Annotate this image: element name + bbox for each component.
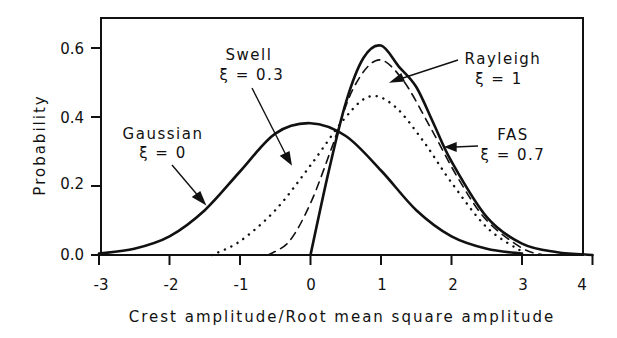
x-tick-label: 3 [518, 276, 528, 294]
arrow-icon [172, 165, 200, 198]
x-axis-ticks [99, 255, 593, 265]
x-tick-label: -3 [94, 276, 109, 294]
arrow-icon [252, 88, 286, 155]
annotation-rayleigh-name: Rayleigh [465, 50, 542, 68]
annotation-gaussian: Gaussian ξ = 0 [123, 125, 204, 162]
annotation-rayleigh-xi: ξ = 1 [475, 70, 523, 88]
x-tick-label: 0 [306, 276, 316, 294]
annotation-swell-xi: ξ = 0.3 [220, 66, 285, 84]
annotation-swell-name: Swell [226, 46, 273, 64]
annotation-fas-name: FAS [497, 126, 529, 144]
y-axis-ticks [91, 48, 101, 255]
y-tick-label: 0.6 [60, 40, 84, 58]
x-tick-label: -1 [234, 276, 249, 294]
y-tick-labels: 0.0 0.2 0.4 0.6 [60, 40, 84, 264]
swell-curve [212, 96, 522, 255]
y-axis-title: Probability [31, 94, 49, 195]
x-axis-title: Crest amplitude/Root mean square amplitu… [129, 308, 556, 326]
x-tick-label: -2 [164, 276, 179, 294]
arrow-icon [400, 60, 458, 79]
annotation-fas: FAS ξ = 0.7 [481, 126, 546, 164]
x-tick-label: 2 [448, 276, 458, 294]
x-tick-labels: -3 -2 -1 0 1 2 3 4 [94, 276, 587, 294]
chart: -3 -2 -1 0 1 2 3 4 0.0 0.2 0.4 0.6 Crest… [0, 0, 617, 338]
annotation-swell: Swell ξ = 0.3 [220, 46, 285, 84]
x-tick-label: 1 [377, 276, 387, 294]
x-tick-label: 4 [577, 276, 587, 294]
annotation-gaussian-name: Gaussian [123, 125, 204, 143]
y-tick-label: 0.2 [60, 175, 84, 193]
arrow-head-icon [391, 74, 404, 82]
annotation-rayleigh: Rayleigh ξ = 1 [465, 50, 542, 88]
rayleigh-curve [311, 45, 593, 255]
arrow-icon [455, 146, 478, 147]
annotation-fas-xi: ξ = 0.7 [481, 146, 546, 164]
arrow-head-icon [281, 152, 291, 164]
arrow-head-icon [446, 143, 456, 151]
arrow-head-icon [193, 192, 205, 204]
annotation-gaussian-xi: ξ = 0 [139, 144, 187, 162]
y-tick-label: 0.4 [60, 109, 84, 127]
y-tick-label: 0.0 [60, 246, 84, 264]
